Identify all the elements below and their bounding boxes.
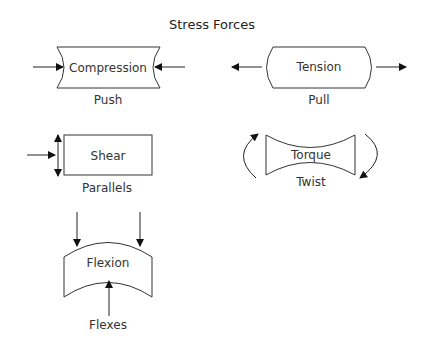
torque-caption: Twist bbox=[296, 175, 325, 189]
shear-group bbox=[27, 135, 152, 176]
tension-caption: Pull bbox=[308, 93, 329, 107]
torque-left-curved-arrow-icon bbox=[243, 134, 258, 178]
compression-label: Compression bbox=[69, 61, 147, 75]
shear-caption: Parallels bbox=[82, 181, 132, 195]
torque-right-curved-arrow-icon bbox=[360, 134, 377, 178]
flexion-label: Flexion bbox=[87, 256, 130, 270]
torque-label: Torque bbox=[291, 148, 331, 162]
stress-forces-diagram bbox=[0, 0, 424, 345]
shear-label: Shear bbox=[91, 149, 126, 163]
compression-caption: Push bbox=[94, 93, 123, 107]
diagram-title: Stress Forces bbox=[169, 17, 255, 32]
flexion-caption: Flexes bbox=[89, 318, 127, 332]
tension-label: Tension bbox=[297, 60, 342, 74]
